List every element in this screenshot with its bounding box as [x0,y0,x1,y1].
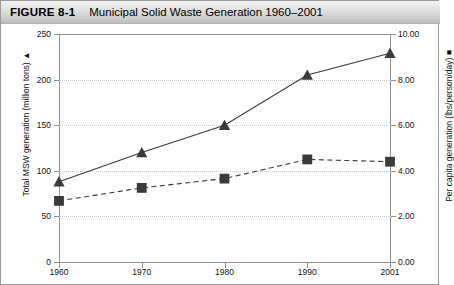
right-axis-tick [391,125,396,126]
left-axis-tick-label: 250 [25,29,51,39]
right-axis-tick-label: 2.00 [398,211,430,221]
right-axis-tick-label: 0.00 [398,257,430,267]
gridline [59,216,391,217]
right-axis-title: Per capita generation (lbs/person/day) ■ [444,36,454,216]
series-per-capita [54,155,395,206]
left-axis-tick [54,125,59,126]
x-axis-tick-label: 2001 [370,267,410,277]
right-axis-tick [391,216,396,217]
plot-border-top [59,34,391,35]
axis-line-left [59,34,60,263]
left-axis-title: Total MSW generation (million tons) ▲ [21,39,31,209]
gridline [59,80,391,81]
figure-title-bar: FIGURE 8-1 Municipal Solid Waste Generat… [1,1,440,24]
right-axis-tick-label: 6.00 [398,120,430,130]
figure-number: FIGURE 8-1 [10,6,75,18]
series-line [59,53,390,182]
chart-series-layer [1,1,440,285]
gridline [59,125,391,126]
x-axis-tick-label: 1960 [39,267,79,277]
figure-title: Municipal Solid Waste Generation 1960–20… [89,6,323,18]
x-axis-tick-label: 1990 [287,267,327,277]
right-axis-tick-label: 4.00 [398,166,430,176]
left-axis-tick [54,171,59,172]
left-axis-tick [54,216,59,217]
series-msw-total [53,48,395,187]
gridline [59,171,391,172]
triangle-marker [302,69,313,79]
square-marker [137,183,147,193]
left-axis-tick-label: 50 [25,211,51,221]
x-axis-tick-label: 1970 [122,267,162,277]
series-line [59,159,390,201]
right-axis-tick [391,262,396,263]
right-axis-tick-label: 8.00 [398,75,430,85]
square-marker [302,155,312,165]
right-axis-tick [391,34,396,35]
triangle-marker [136,147,147,157]
axis-line-right [390,34,391,263]
left-axis-tick-label: 0 [25,257,51,267]
right-axis-tick [391,171,396,172]
right-axis-tick-label: 10.00 [398,29,430,39]
x-axis-tick-label: 1980 [205,267,245,277]
right-axis-tick [391,80,396,81]
square-marker [220,174,230,184]
left-axis-tick [54,34,59,35]
left-axis-tick [54,80,59,81]
